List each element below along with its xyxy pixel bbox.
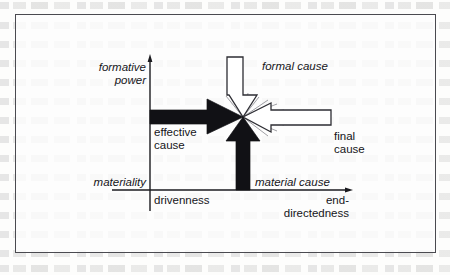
label-formal-cause: formal cause [262, 60, 328, 72]
label-directedness: directedness [284, 207, 349, 219]
formal-cause-arrow [227, 57, 257, 117]
label-effective-cause: cause [154, 139, 185, 151]
label-formative: formative [99, 61, 146, 73]
scanned-page: formative power materiality drivenness e… [0, 0, 450, 275]
horizontal-axis-arrowhead [345, 188, 353, 193]
label-power: power [114, 74, 147, 86]
label-final-cause: cause [334, 143, 365, 155]
vertical-axis-arrowhead [148, 54, 153, 62]
label-materiality: materiality [94, 176, 148, 188]
label-effective: effective [154, 126, 197, 138]
label-drivenness: drivenness [154, 194, 210, 206]
label-end-dash: end- [326, 194, 349, 206]
label-final: final [334, 130, 355, 142]
final-cause-arrow [243, 103, 331, 132]
label-material-cause: material cause [255, 176, 330, 188]
four-causes-diagram: formative power materiality drivenness e… [0, 0, 450, 275]
